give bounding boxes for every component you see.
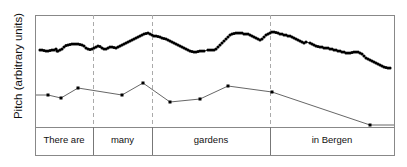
target-marker-2 [60, 97, 63, 100]
data-series-group [36, 30, 394, 126]
target-marker-5 [142, 82, 145, 85]
contour-point-133 [304, 40, 307, 43]
target-marker-7 [199, 98, 202, 101]
segment-boundary-dashed-lines [94, 15, 271, 127]
target-marker-9 [271, 91, 274, 94]
target-line [36, 83, 394, 125]
segment-label-1: many [93, 135, 152, 145]
target-marker-8 [227, 85, 230, 88]
target-marker-3 [77, 87, 80, 90]
contour-point-83 [202, 49, 205, 52]
series-pitch-targets [36, 82, 394, 127]
series-pitch-contour [38, 30, 391, 69]
target-marker-6 [169, 101, 172, 104]
segment-label-0: There are [35, 135, 93, 145]
target-marker-4 [121, 94, 124, 97]
segment-label-3: in Bergen [270, 135, 394, 145]
target-marker-10 [369, 124, 372, 127]
segment-label-2: gardens [152, 135, 270, 145]
pitch-contour-figure: Pitch (arbitrary units) There aremanygar… [0, 0, 407, 167]
contour-point-174 [388, 66, 391, 69]
target-marker-1 [47, 94, 50, 97]
